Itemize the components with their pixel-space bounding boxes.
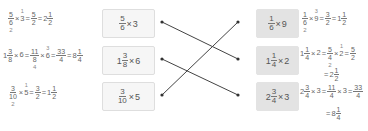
left-dot-1[interactable]	[160, 20, 163, 23]
right-dot-2[interactable]	[236, 57, 239, 60]
right-dot-3[interactable]	[236, 93, 239, 96]
right-expression-box-3[interactable]: 234×3	[256, 82, 299, 111]
connection-line-2	[162, 59, 238, 95]
left-expression-box-1[interactable]: 56×3	[102, 9, 155, 38]
left-work-1: 562×31=52=212	[8, 11, 53, 26]
right-expression-box-2[interactable]: 114×2	[256, 46, 299, 75]
left-expression-box-2[interactable]: 138×6	[102, 46, 155, 75]
right-dot-1[interactable]	[236, 20, 239, 23]
right-work-3: 234×3=114×3=334	[300, 84, 363, 99]
fraction: 562	[8, 11, 14, 26]
right-expression-box-1[interactable]: 16×9	[256, 9, 299, 38]
left-dot-3[interactable]	[160, 93, 163, 96]
connection-line-3	[162, 22, 238, 95]
left-dot-2[interactable]	[160, 57, 163, 60]
right-work-2: 114×2=542×21=52	[300, 46, 356, 61]
right-work-1: 162×93=32=112	[302, 11, 347, 26]
left-expression-box-3[interactable]: 310×5	[102, 82, 155, 111]
left-work-3: 3102×51=32=112	[8, 85, 57, 100]
right-work-3-line2: =814	[325, 106, 341, 121]
right-work-2-line2: =212	[323, 67, 339, 82]
left-work-2: 138×6=1184×63=334=814	[3, 48, 83, 63]
connection-line-1	[162, 22, 238, 59]
